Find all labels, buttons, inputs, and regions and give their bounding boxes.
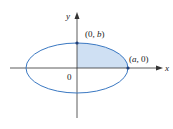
point-top: [75, 41, 78, 44]
point-right-label: (a, 0): [129, 54, 149, 64]
x-axis-label: x: [164, 63, 169, 73]
x-axis-arrow-icon: [156, 66, 163, 71]
point-right: [126, 66, 129, 69]
ellipse-diagram: y x 0 (0, b) (a, 0): [0, 0, 173, 129]
origin-label: 0: [67, 72, 72, 82]
y-axis-label: y: [65, 11, 70, 21]
point-top-label: (0, b): [85, 29, 105, 39]
y-axis-arrow-icon: [75, 12, 80, 19]
